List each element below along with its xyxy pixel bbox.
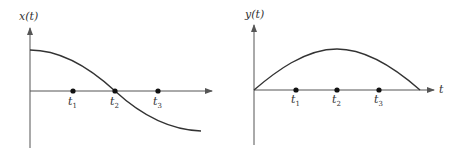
- tick-label-t3: t3: [374, 93, 383, 108]
- tick-dot-t3: [155, 88, 160, 93]
- right-x-axis-label: t: [439, 83, 444, 96]
- tick-dot-t3: [376, 87, 381, 92]
- figure-canvas: x(t) t1 t2 t3 y(t) t t1 t2 t3: [0, 0, 456, 152]
- tick-dot-t1: [70, 88, 75, 93]
- tick-label-t1: t1: [68, 95, 77, 110]
- left-y-axis-label: x(t): [19, 10, 38, 23]
- tick-dot-t2: [112, 88, 117, 93]
- right-y-axis-label: y(t): [244, 8, 264, 21]
- right-plot-y-of-t: y(t) t t1 t2 t3: [244, 8, 444, 145]
- left-plot-x-of-t: x(t) t1 t2 t3: [19, 10, 212, 148]
- tick-dot-t1: [293, 87, 298, 92]
- tick-label-t2: t2: [332, 93, 341, 108]
- tick-dot-t2: [334, 87, 339, 92]
- tick-label-t3: t3: [153, 95, 162, 110]
- tick-label-t1: t1: [291, 93, 300, 108]
- tick-label-t2: t2: [110, 95, 119, 110]
- y-of-t-curve: [254, 49, 420, 90]
